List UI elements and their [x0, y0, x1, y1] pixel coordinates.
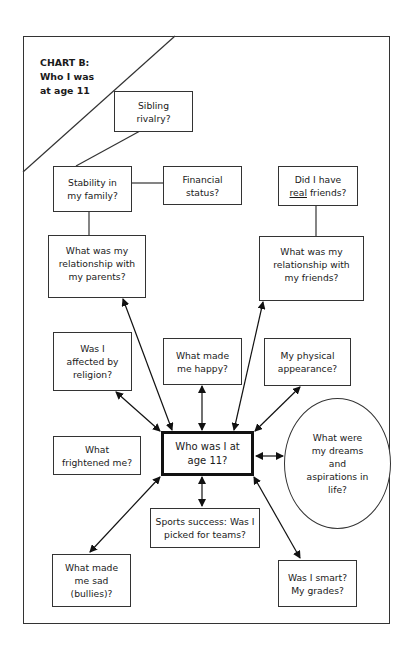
- chart-title: CHART B: Who I was at age 11: [40, 56, 94, 98]
- node-physical-appearance: My physical appearance?: [264, 338, 351, 386]
- node-center-who-was-i: Who was I at age 11?: [161, 431, 254, 476]
- node-sibling-rivalry: Sibling rivalry?: [114, 91, 193, 132]
- chart-label: CHART B:: [40, 57, 89, 68]
- real-friends-prefix: Did I have: [295, 174, 342, 185]
- diagonal-line-lower: [76, 131, 140, 166]
- node-relationship-friends: What was my relationship with my friends…: [259, 236, 364, 301]
- node-sports-success: Sports success: Was I picked for teams?: [150, 508, 260, 548]
- node-religion: Was I affected by religion?: [53, 332, 132, 391]
- node-relationship-parents: What was my relationship with my parents…: [48, 235, 146, 298]
- node-happy: What made me happy?: [163, 338, 242, 385]
- node-financial-status: Financial status?: [163, 166, 242, 205]
- node-sad-bullies: What made me sad (bullies)?: [52, 554, 131, 607]
- node-frightened: What frightened me?: [53, 436, 141, 475]
- node-real-friends: Did I havereal friends?: [278, 166, 358, 206]
- real-friends-suffix: friends?: [307, 187, 346, 198]
- node-dreams-aspirations: What were my dreams and aspirations in l…: [284, 398, 391, 529]
- node-stability-family: Stability in my family?: [53, 166, 132, 212]
- real-underlined: real: [290, 187, 307, 198]
- arrow-religion: [116, 392, 160, 431]
- real-friends-text: Did I havereal friends?: [290, 173, 347, 199]
- node-smart-grades: Was I smart? My grades?: [278, 560, 357, 607]
- chart-subtitle: Who I was at age 11: [40, 71, 94, 96]
